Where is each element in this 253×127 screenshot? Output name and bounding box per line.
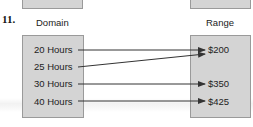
arrow-25-hours-to-200	[78, 54, 205, 67]
mapping-arrows	[0, 0, 253, 127]
